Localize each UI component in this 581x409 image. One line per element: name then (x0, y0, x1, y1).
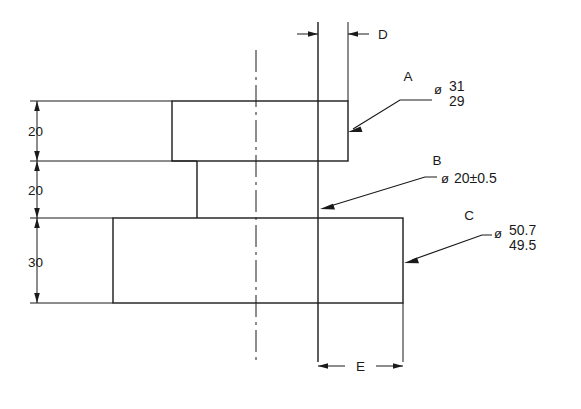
dim-value-bottom-flange-height: 30 (28, 255, 43, 270)
callout-a-lower-limit: 29 (449, 93, 465, 109)
arrowhead-e-left (318, 363, 328, 369)
bottom-flange-outline (113, 218, 403, 303)
callout-c-upper-limit: 50.7 (509, 222, 536, 238)
diameter-symbol-a: ø (434, 82, 442, 97)
diameter-symbol-c: ø (494, 226, 502, 241)
diameter-symbol-b: ø (441, 171, 449, 186)
arrowhead-20-mid-down (34, 161, 40, 171)
technical-drawing-canvas: 20 20 30 D E A ø 31 29 B ø 20±0.5 C ø (0, 0, 581, 409)
callout-b-value: 20±0.5 (454, 170, 497, 186)
dim-value-d: D (378, 27, 388, 42)
arrowhead-d-left (308, 31, 318, 37)
leader-line-a (353, 100, 432, 129)
dim-value-top-flange-height: 20 (28, 124, 43, 139)
callout-a-upper-limit: 31 (449, 78, 465, 94)
arrowhead-leader-b (320, 204, 335, 210)
dim-value-shaft-length: 20 (28, 183, 43, 198)
arrowhead-30-up (34, 293, 40, 303)
arrowhead-d-right (348, 31, 358, 37)
leader-line-c (412, 235, 492, 260)
callout-letter-b: B (432, 153, 441, 168)
leader-line-b (327, 177, 437, 207)
arrowhead-leader-c (404, 258, 419, 264)
callout-c-lower-limit: 49.5 (509, 237, 536, 253)
arrowhead-20-top-down (34, 101, 40, 111)
dim-value-e: E (356, 359, 365, 374)
arrowhead-20-mid-up (34, 208, 40, 218)
engineering-drawing-svg: 20 20 30 D E A ø 31 29 B ø 20±0.5 C ø (0, 0, 581, 409)
arrowhead-e-right (393, 363, 403, 369)
arrowhead-20-top-up (34, 151, 40, 161)
arrowhead-30-down (34, 218, 40, 228)
callout-letter-c: C (464, 208, 474, 223)
top-flange-outline (172, 101, 348, 161)
callout-letter-a: A (403, 69, 412, 84)
